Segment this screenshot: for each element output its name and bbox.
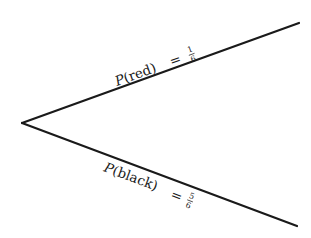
label-red-arg: (red) <box>121 59 158 85</box>
label-red: P(red) = 1 6 <box>111 44 197 91</box>
probability-tree-diagram: P(red) = 1 6 P(black) = 5 6 <box>0 0 311 238</box>
branch-black <box>22 123 297 226</box>
fraction-black-denominator: 6 <box>184 200 192 210</box>
fraction-black-numerator: 5 <box>188 191 196 201</box>
svg-text:P(red): P(red) <box>112 59 159 89</box>
branch-red <box>22 23 299 123</box>
label-black-arg: (black) <box>110 162 160 194</box>
fraction-red: 1 6 <box>186 44 198 64</box>
fraction-black: 5 6 <box>184 191 196 211</box>
fraction-red-numerator: 1 <box>186 45 194 55</box>
label-black-equals: = <box>169 186 185 205</box>
label-black: P(black) = 5 6 <box>100 158 197 210</box>
